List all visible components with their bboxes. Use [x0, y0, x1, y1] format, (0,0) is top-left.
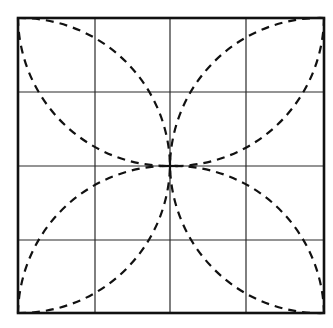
- petal-grid-diagram: [0, 0, 333, 328]
- center-cross-mark: [162, 158, 178, 174]
